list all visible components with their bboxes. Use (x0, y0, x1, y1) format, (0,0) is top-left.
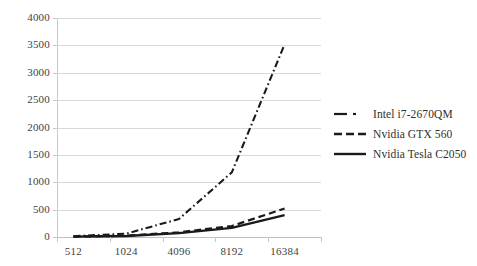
x-axis-tick-label: 16384 (255, 245, 315, 257)
x-axis-tick (268, 237, 269, 242)
x-axis-tick (321, 237, 322, 242)
plot-area (57, 18, 321, 237)
y-axis-tick-label: 3000 (4, 67, 50, 78)
x-axis-tick-label: 8192 (202, 245, 262, 257)
x-axis-tick (215, 237, 216, 242)
legend-label: Intel i7-2670QM (373, 108, 453, 121)
y-axis-tick-label: 1000 (4, 176, 50, 187)
series-line (73, 44, 284, 236)
x-axis-tick (57, 237, 58, 242)
y-axis-tick-label: 1500 (4, 149, 50, 160)
y-axis-tick-label: 3500 (4, 39, 50, 50)
y-axis-tick-label: 2500 (4, 94, 50, 105)
legend-swatch-solid-icon (333, 148, 373, 160)
series-layer (57, 18, 321, 237)
x-axis-tick-label: 4096 (149, 245, 209, 257)
y-axis-tick-label: 2000 (4, 122, 50, 133)
y-axis-tick-label: 500 (4, 204, 50, 215)
x-axis-tick (110, 237, 111, 242)
y-axis-tick-label: 4000 (4, 12, 50, 23)
chart-legend: Intel i7-2670QM Nvidia GTX 560 Nvidia Te… (333, 104, 477, 164)
legend-item-nvidia-gtx-560: Nvidia GTX 560 (333, 124, 477, 144)
legend-label: Nvidia GTX 560 (373, 128, 452, 141)
x-axis-tick (163, 237, 164, 242)
x-axis-tick-label: 512 (43, 245, 103, 257)
legend-item-intel-i7-2670qm: Intel i7-2670QM (333, 104, 477, 124)
legend-swatch-dash-dot-icon (333, 108, 373, 120)
x-axis-tick-label: 1024 (96, 245, 156, 257)
legend-label: Nvidia Tesla C2050 (373, 148, 466, 161)
legend-swatch-dashed-icon (333, 128, 373, 140)
legend-item-nvidia-tesla-c2050: Nvidia Tesla C2050 (333, 144, 477, 164)
line-chart: 40003500300025002000150010005000 5121024… (0, 0, 477, 266)
y-axis-tick-label: 0 (4, 231, 50, 242)
